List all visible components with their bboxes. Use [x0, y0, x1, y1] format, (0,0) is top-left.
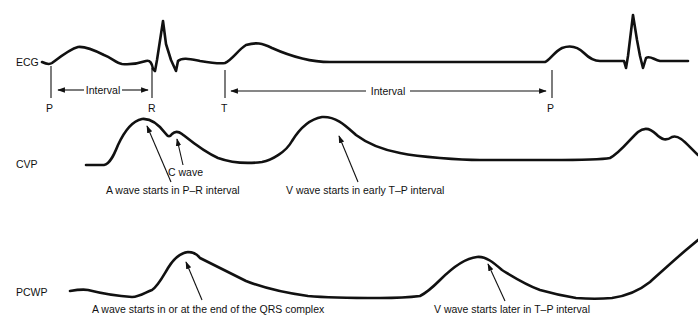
ecg-row-label: ECG [16, 56, 39, 68]
tp-interval-label: Interval [371, 85, 405, 97]
marker-label-r: R [148, 102, 156, 114]
pcwp-trace [70, 240, 698, 299]
marker-label-p2: P [547, 102, 554, 114]
pcwp-row-label: PCWP [16, 286, 48, 298]
hemodynamic-waveform-diagram: ECG P R T P Interval Interval CVP C wave… [0, 0, 698, 325]
cvp-v-wave-arrow [339, 136, 358, 182]
cvp-c-wave-arrow [177, 139, 183, 165]
pcwp-v-wave-label: V wave starts later in T–P interval [434, 303, 590, 315]
pcwp-a-wave-label: A wave starts in or at the end of the QR… [92, 303, 325, 315]
cvp-row-label: CVP [16, 158, 38, 170]
cvp-c-wave-label: C wave [168, 166, 203, 178]
pcwp-a-wave-arrow [186, 262, 202, 300]
marker-label-t: T [221, 102, 228, 114]
ecg-trace [42, 15, 688, 71]
marker-label-p1: P [46, 102, 53, 114]
cvp-a-wave-label: A wave starts in P–R interval [106, 184, 240, 196]
cvp-v-wave-label: V wave starts in early T–P interval [286, 184, 444, 196]
pr-interval-label: Interval [86, 84, 120, 96]
